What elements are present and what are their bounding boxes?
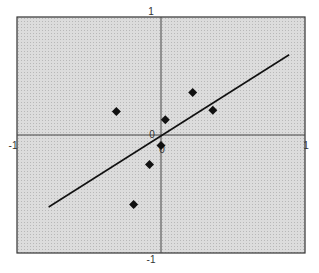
tick-label-origin: 0 xyxy=(149,129,155,140)
tick-label-x-left: -1 xyxy=(9,140,18,151)
tick-label-y-top: 1 xyxy=(148,6,154,17)
tick-label-y-bottom: -1 xyxy=(147,254,156,265)
scatter-chart: 1-1-1100 xyxy=(0,0,319,273)
tick-label-x-right: 1 xyxy=(303,140,309,151)
